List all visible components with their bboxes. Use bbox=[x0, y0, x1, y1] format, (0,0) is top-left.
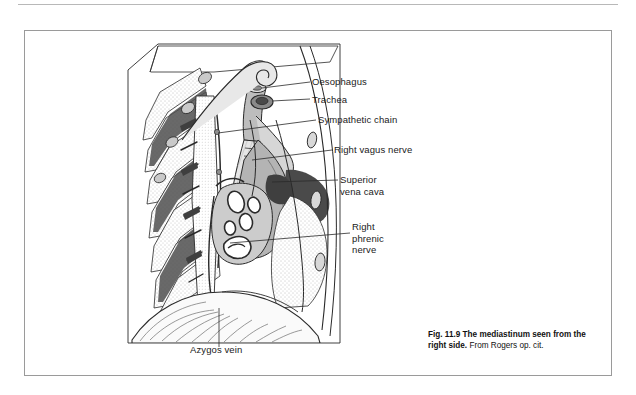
page: Oesophagus Trachea Sympathetic chain Rig… bbox=[0, 0, 636, 395]
label-trachea: Trachea bbox=[312, 94, 347, 106]
label-oesophagus: Oesophagus bbox=[312, 76, 367, 88]
label-right-vagus-nerve: Right vagus nerve bbox=[334, 144, 412, 156]
label-azygos-vein: Azygos vein bbox=[190, 344, 242, 356]
label-superior-vena-cava: Superior vena cava bbox=[340, 174, 384, 197]
figure-caption: Fig. 11.9 The mediastinum seen from the … bbox=[428, 329, 600, 351]
label-sympathetic-chain: Sympathetic chain bbox=[318, 114, 397, 126]
caption-source: From Rogers op. cit. bbox=[467, 341, 543, 350]
label-right-phrenic-nerve: Right phrenic nerve bbox=[352, 221, 384, 256]
